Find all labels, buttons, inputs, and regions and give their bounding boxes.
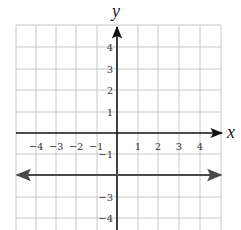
svg-text:2: 2	[107, 85, 113, 96]
svg-text:−3: −3	[49, 141, 64, 152]
x-tick-labels: −4 −3 −2 −1 1 2 3 4	[29, 141, 204, 152]
svg-text:2: 2	[155, 141, 161, 152]
grid	[16, 25, 221, 230]
svg-text:1: 1	[135, 141, 141, 152]
svg-text:−2: −2	[69, 141, 84, 152]
x-axis-label: x	[226, 122, 235, 142]
svg-text:4: 4	[197, 141, 203, 152]
y-axis-label: y	[110, 1, 120, 21]
coordinate-plane: x y −4 −3 −2 −1 1 2 3 4 4 3 2 1 −1 −3 −4	[0, 0, 241, 230]
svg-text:−4: −4	[29, 141, 44, 152]
svg-text:3: 3	[107, 64, 113, 75]
svg-text:−3: −3	[98, 192, 113, 203]
svg-text:1: 1	[107, 107, 113, 118]
svg-text:−1: −1	[98, 149, 113, 160]
svg-text:−4: −4	[98, 213, 113, 224]
svg-text:4: 4	[107, 42, 113, 53]
svg-text:3: 3	[176, 141, 182, 152]
